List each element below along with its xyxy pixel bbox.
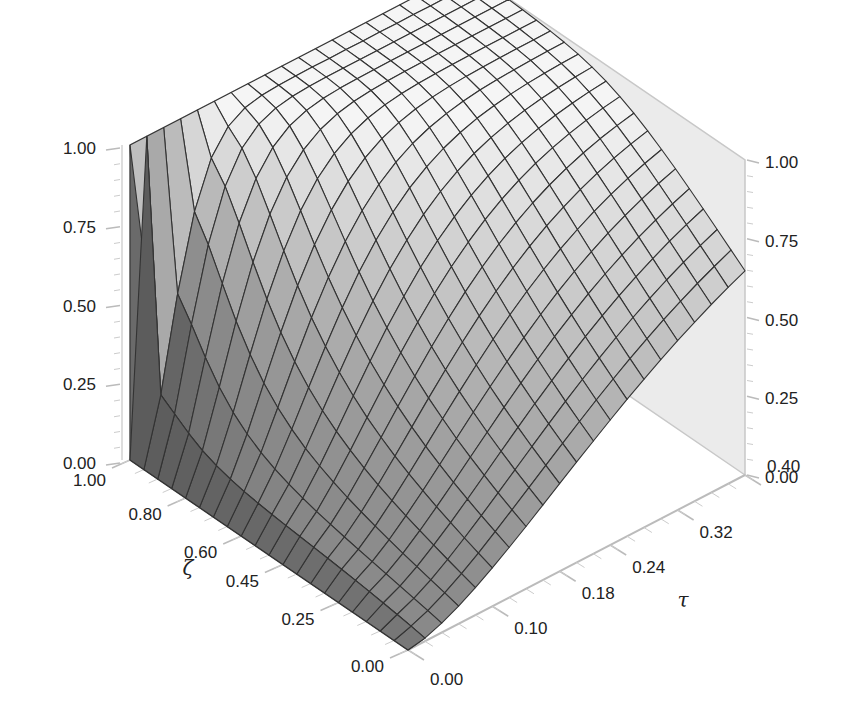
psi-minor-tick [747,223,753,224]
psi-minor-tick [114,274,120,275]
tau-tick-label: 0.24 [632,558,665,577]
psi-left-tick-label: 0.50 [63,297,96,316]
psi-minor-tick [747,302,753,303]
zeta-minor-tick [302,584,311,588]
psi-minor-tick [747,176,753,177]
zeta-minor-tick [232,536,241,540]
zeta-minor-tick [343,612,352,616]
psi-minor-tick [747,444,753,445]
zeta-minor-tick [385,641,394,645]
psi-minor-tick [114,290,120,291]
zeta-minor-tick [191,508,200,512]
psi-left-tick-label: 1.00 [63,139,96,158]
tau-minor-tick [627,536,635,541]
zeta-minor-tick [121,460,130,464]
tau-minor-tick [459,624,467,629]
psi-left-tick [106,306,120,308]
tau-axis-title: τ [677,588,689,612]
tau-minor-tick [408,650,416,655]
psi-left-tick-label: 0.75 [63,218,96,237]
psi-minor-tick [114,353,120,354]
zeta-minor-tick [149,479,158,483]
zeta-minor-tick [246,546,255,550]
tau-minor-tick [661,519,669,524]
tau-tick-label: 0.40 [767,457,800,476]
psi-left-tick [106,384,120,386]
tau-minor-tick [543,580,551,585]
zeta-minor-tick [218,527,227,531]
zeta-tick-label: 0.45 [226,572,259,591]
psi-left-tick-label: 0.25 [63,375,96,394]
psi-minor-tick [114,211,120,212]
psi-minor-tick [114,321,120,322]
tau-minor-tick [509,598,517,603]
psi-minor-tick [114,258,120,259]
zeta-minor-tick [135,470,144,474]
zeta-tick-label: 0.25 [281,610,314,629]
tau-tick-label: 0.32 [700,523,733,542]
psi-minor-tick [114,195,120,196]
tau-minor-tick [560,571,568,576]
psi-minor-tick [747,365,753,366]
psi-minor-tick [747,255,753,256]
tau-minor-tick [610,545,618,550]
tau-tick-label: 0.18 [582,584,615,603]
psi-minor-tick [114,369,120,370]
zeta-minor-tick [357,622,366,626]
psi-right-tick-label: 0.50 [765,311,798,330]
tau-minor-tick [442,633,450,638]
zeta-tick-label: 0.00 [351,657,384,676]
psi-right-tick [747,160,759,163]
tau-tick-label: 0.10 [514,619,547,638]
tau-minor-tick [694,501,702,506]
psi-left-tick [106,227,120,229]
zeta-minor-tick [260,555,269,559]
psi-minor-tick [114,416,120,417]
tau-minor-tick [593,554,601,559]
tau-minor-tick [728,484,736,489]
psi-right-tick [747,396,759,399]
psi-right-tick-label: 1.00 [765,153,798,172]
psi-minor-tick [747,349,753,350]
psi-minor-tick [747,412,753,413]
zeta-minor-tick [399,650,408,654]
psi-minor-tick [747,270,753,271]
tau-minor-tick [678,510,686,515]
zeta-minor-tick [330,603,339,607]
psi-right-tick-label: 0.75 [765,232,798,251]
zeta-tick-label: 0.80 [129,505,162,524]
zeta-minor-tick [316,593,325,597]
psi-minor-tick [114,164,120,165]
psi-minor-tick [114,432,120,433]
psi-right-tick [747,318,759,321]
psi-minor-tick [114,243,120,244]
tau-minor-tick [577,563,585,568]
psi-minor-tick [747,286,753,287]
zeta-minor-tick [288,574,297,578]
psi-right-tick-label: 0.25 [765,389,798,408]
tau-minor-tick [526,589,534,594]
psi-left-tick [106,148,120,150]
tau-minor-tick [644,528,652,533]
tau-minor-tick [711,493,719,498]
psi-minor-tick [747,428,753,429]
zeta-minor-tick [163,489,172,493]
psi-minor-tick [114,447,120,448]
surface-plot: 0.000.250.500.751.000.000.250.500.751.00… [0,0,863,720]
zeta-minor-tick [177,498,186,502]
tau-minor-tick [475,615,483,620]
psi-right-tick [747,239,759,242]
psi-minor-tick [747,459,753,460]
zeta-minor-tick [371,631,380,635]
psi-minor-tick [114,337,120,338]
zeta-axis-title: ζ [183,556,195,580]
tau-tick-label: 0.00 [430,670,463,689]
tau-minor-tick [492,606,500,611]
psi-minor-tick [747,333,753,334]
zeta-tick-label: 1.00 [73,471,106,490]
psi-minor-tick [747,192,753,193]
psi-minor-tick [747,381,753,382]
zeta-minor-tick [274,565,283,569]
psi-minor-tick [114,180,120,181]
psi-minor-tick [747,207,753,208]
